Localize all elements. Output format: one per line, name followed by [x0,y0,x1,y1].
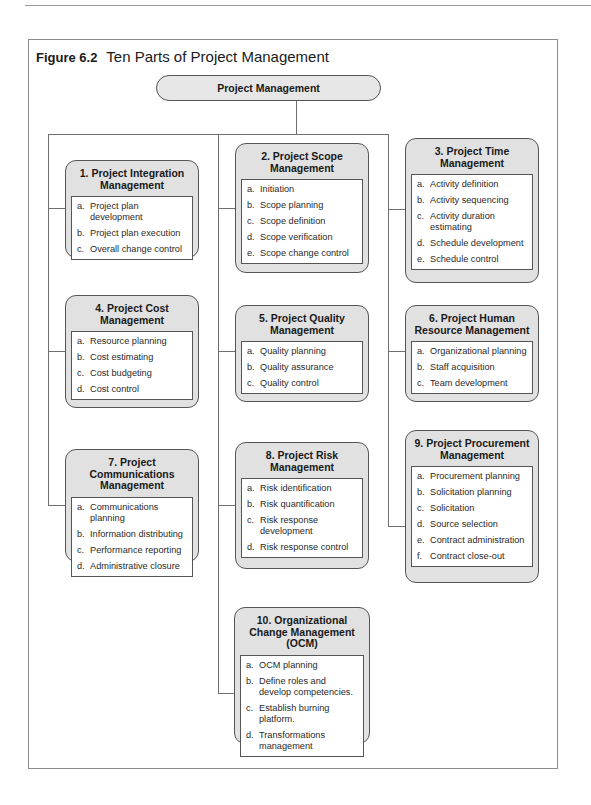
list-item: d.Schedule development [417,235,527,251]
list-item: d.Cost control [77,381,187,397]
box-list: a.Communications planning b.Information … [71,497,193,577]
box-title: 7. Project Communications Management [71,457,193,492]
connector-to-box-8 [218,505,235,506]
list-item: c.Establish burning platform. [246,700,358,727]
figure-caption: Figure 6.2 Ten Parts of Project Manageme… [36,48,329,65]
list-item: e.Contract administration [417,532,527,548]
figure-number: Figure 6.2 [36,50,97,65]
box-list: a.OCM planning b.Define roles and develo… [240,655,364,757]
list-item: c.Cost budgeting [77,365,187,381]
box-list: a.Risk identification b.Risk quantificat… [241,478,363,558]
connector-to-box-7 [48,505,65,506]
list-item: c.Risk response development [247,512,357,539]
box-list: a.Organizational planning b.Staff acquis… [411,341,533,394]
page-header-rule [25,5,591,6]
box-procurement-management: 9. Project Procurement Management a.Proc… [405,430,539,583]
connector-to-box-3 [388,209,405,210]
box-list: a.Resource planning b.Cost estimating c.… [71,331,193,400]
box-list: a.Project plan development b.Project pla… [71,196,193,260]
list-item: b.Cost estimating [77,349,187,365]
list-item: a.OCM planning [246,657,358,673]
box-title: 8. Project Risk Management [241,450,363,473]
box-time-management: 3. Project Time Management a.Activity de… [405,138,539,283]
box-integration-management: 1. Project Integration Management a.Proj… [65,160,199,258]
connector-right-vertical [388,134,389,527]
figure-title: Ten Parts of Project Management [106,48,329,65]
list-item: a.Resource planning [77,333,187,349]
list-item: a.Activity definition [417,176,527,192]
list-item: c.Performance reporting [77,542,187,558]
list-item: b.Staff acquisition [417,359,527,375]
box-human-resource-management: 6. Project Human Resource Management a.O… [405,305,539,402]
connector-to-box-9 [388,526,405,527]
list-item: a.Risk identification [247,480,357,496]
box-list: a.Quality planning b.Quality assurance c… [241,341,363,394]
box-title: 6. Project Human Resource Management [411,313,533,336]
box-title: 4. Project Cost Management [71,303,193,326]
connector-to-box-6 [388,351,405,352]
connector-to-box-2 [218,208,235,209]
list-item: c.Overall change control [77,241,187,257]
box-quality-management: 5. Project Quality Management a.Quality … [235,305,369,402]
list-item: a.Communications planning [77,499,187,526]
list-item: a.Organizational planning [417,343,527,359]
box-title: 2. Project Scope Management [241,151,363,174]
list-item: f.Contract close-out [417,548,527,564]
list-item: b.Solicitation planning [417,484,527,500]
list-item: a.Procurement planning [417,468,527,484]
box-title: 3. Project Time Management [411,146,533,169]
list-item: d.Administrative closure [77,558,187,574]
list-item: e.Scope change control [247,245,357,261]
box-scope-management: 2. Project Scope Management a.Initiation… [235,143,369,273]
list-item: b.Risk quantification [247,496,357,512]
box-list: a.Activity definition b.Activity sequenc… [411,174,533,270]
list-item: c.Activity duration estimating [417,208,527,235]
list-item: c.Solicitation [417,500,527,516]
connector-middle-vertical [218,134,219,694]
list-item: c.Scope definition [247,213,357,229]
box-communications-management: 7. Project Communications Management a.C… [65,449,199,562]
list-item: b.Define roles and develop competencies. [246,673,358,700]
list-item: b.Activity sequencing [417,192,527,208]
list-item: d.Transformations management [246,727,358,754]
list-item: a.Initiation [247,181,357,197]
list-item: b.Quality assurance [247,359,357,375]
list-item: c.Team development [417,375,527,391]
list-item: b.Project plan execution [77,225,187,241]
list-item: b.Information distributing [77,526,187,542]
box-organizational-change-management: 10. Organizational Change Management (OC… [234,607,370,744]
box-cost-management: 4. Project Cost Management a.Resource pl… [65,295,199,408]
connector-to-box-1 [48,208,65,209]
list-item: d.Risk response control [247,539,357,555]
list-item: b.Scope planning [247,197,357,213]
box-title: 9. Project Procurement Management [411,438,533,461]
list-item: e.Schedule control [417,251,527,267]
list-item: d.Scope verification [247,229,357,245]
list-item: c.Quality control [247,375,357,391]
list-item: d.Source selection [417,516,527,532]
connector-root-down [296,101,297,134]
box-risk-management: 8. Project Risk Management a.Risk identi… [235,442,369,569]
connector-to-box-5 [218,351,235,352]
box-list: a.Procurement planning b.Solicitation pl… [411,466,533,567]
box-title: 10. Organizational Change Management (OC… [240,615,364,650]
list-item: a.Quality planning [247,343,357,359]
connector-to-box-10 [218,693,235,694]
box-title: 1. Project Integration Management [71,168,193,191]
connector-to-box-4 [48,351,65,352]
box-title: 5. Project Quality Management [241,313,363,336]
root-node-project-management: Project Management [156,75,381,101]
list-item: a.Project plan development [77,198,187,225]
box-list: a.Initiation b.Scope planning c.Scope de… [241,179,363,264]
connector-left-vertical [48,134,49,506]
